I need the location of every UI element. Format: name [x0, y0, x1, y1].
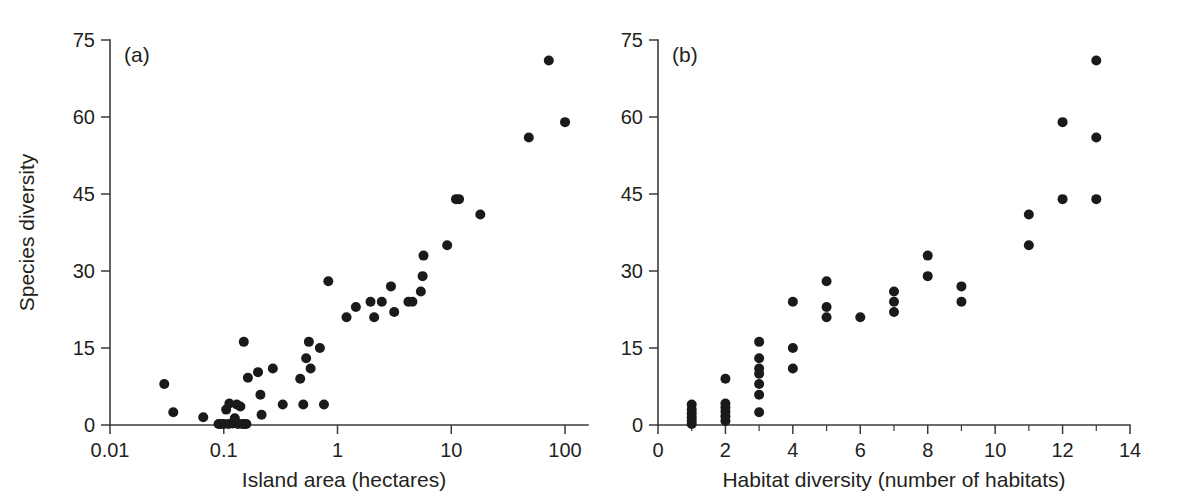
- data-point: [788, 364, 798, 374]
- scatter-panel-a: 015304560750.010.1110100Island area (hec…: [0, 0, 590, 502]
- y-tick-label: 30: [73, 260, 95, 282]
- scatter-plot-b-svg: 0153045607502468101214Habitat diversity …: [590, 0, 1179, 502]
- data-point: [407, 297, 417, 307]
- data-point: [304, 337, 314, 347]
- x-tick-label: 14: [1119, 439, 1141, 461]
- data-point: [168, 407, 178, 417]
- data-point: [1024, 210, 1034, 220]
- panel-label: (a): [124, 43, 150, 66]
- data-point: [315, 343, 325, 353]
- x-tick-label: 0.1: [210, 439, 238, 461]
- figure-container: 015304560750.010.1110100Island area (hec…: [0, 0, 1179, 502]
- data-point: [855, 312, 865, 322]
- data-point: [1091, 194, 1101, 204]
- data-point: [788, 297, 798, 307]
- data-point: [351, 302, 361, 312]
- data-point: [418, 271, 428, 281]
- x-tick-label: 8: [922, 439, 933, 461]
- data-point: [889, 307, 899, 317]
- data-point: [239, 337, 249, 347]
- data-point: [1091, 56, 1101, 66]
- y-tick-label: 15: [621, 337, 643, 359]
- x-tick-label: 1: [332, 439, 343, 461]
- data-point: [956, 281, 966, 291]
- data-point: [159, 379, 169, 389]
- data-point: [788, 343, 798, 353]
- data-point: [198, 412, 208, 422]
- data-point: [386, 281, 396, 291]
- data-point: [560, 117, 570, 127]
- data-point: [754, 379, 764, 389]
- data-point: [268, 364, 278, 374]
- y-tick-label: 0: [84, 414, 95, 436]
- data-point: [442, 240, 452, 250]
- y-tick-label: 60: [621, 106, 643, 128]
- data-point: [323, 276, 333, 286]
- data-point: [416, 287, 426, 297]
- y-tick-label: 15: [73, 337, 95, 359]
- data-point: [956, 297, 966, 307]
- y-tick-label: 75: [621, 29, 643, 51]
- data-point: [278, 399, 288, 409]
- data-point: [754, 364, 764, 374]
- data-point: [754, 337, 764, 347]
- y-tick-label: 75: [73, 29, 95, 51]
- data-point: [923, 271, 933, 281]
- data-point: [1091, 133, 1101, 143]
- data-point: [454, 194, 464, 204]
- data-point: [822, 302, 832, 312]
- x-tick-label: 10: [440, 439, 462, 461]
- data-point: [253, 367, 263, 377]
- data-point: [822, 276, 832, 286]
- data-point: [243, 373, 253, 383]
- data-point: [377, 297, 387, 307]
- data-point: [1024, 240, 1034, 250]
- data-point: [298, 399, 308, 409]
- x-tick-label: 12: [1051, 439, 1073, 461]
- data-point: [369, 312, 379, 322]
- data-point: [822, 312, 832, 322]
- x-tick-label: 6: [855, 439, 866, 461]
- y-tick-label: 30: [621, 260, 643, 282]
- data-point: [889, 297, 899, 307]
- data-point: [754, 407, 764, 417]
- scatter-plot-a-svg: 015304560750.010.1110100Island area (hec…: [0, 0, 590, 502]
- y-tick-label: 0: [632, 414, 643, 436]
- x-tick-label: 0: [652, 439, 663, 461]
- data-point: [889, 287, 899, 297]
- data-point: [389, 307, 399, 317]
- data-point: [720, 398, 730, 408]
- x-tick-label: 4: [787, 439, 798, 461]
- scatter-panel-b: 0153045607502468101214Habitat diversity …: [590, 0, 1179, 502]
- data-point: [235, 402, 245, 412]
- data-point: [257, 410, 267, 420]
- data-point: [475, 210, 485, 220]
- x-tick-label: 0.01: [91, 439, 130, 461]
- panel-label: (b): [672, 43, 698, 66]
- data-point: [241, 419, 251, 429]
- data-point: [319, 399, 329, 409]
- data-point: [524, 133, 534, 143]
- data-point: [255, 390, 265, 400]
- y-tick-label: 45: [73, 183, 95, 205]
- x-axis-title: Island area (hectares): [242, 468, 446, 491]
- data-point: [366, 297, 376, 307]
- data-point: [342, 312, 352, 322]
- data-point: [306, 364, 316, 374]
- data-point: [754, 353, 764, 363]
- data-point: [720, 374, 730, 384]
- data-point: [923, 251, 933, 261]
- y-tick-label: 45: [621, 183, 643, 205]
- x-tick-label: 100: [548, 439, 581, 461]
- x-axis-title: Habitat diversity (number of habitats): [722, 468, 1065, 491]
- data-point: [1058, 117, 1068, 127]
- data-point: [295, 374, 305, 384]
- data-point: [754, 390, 764, 400]
- data-point: [301, 353, 311, 363]
- x-tick-label: 10: [984, 439, 1006, 461]
- data-point: [687, 399, 697, 409]
- x-tick-label: 2: [720, 439, 731, 461]
- data-point: [1058, 194, 1068, 204]
- y-tick-label: 60: [73, 106, 95, 128]
- y-axis-title: Species diversity: [15, 153, 38, 311]
